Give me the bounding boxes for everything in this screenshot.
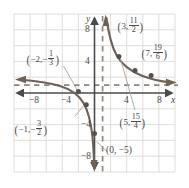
p6-numerator: 15 — [131, 113, 141, 121]
p5-fraction: 196 — [153, 44, 163, 62]
paren-open-p6: ( — [119, 116, 123, 130]
leader-lines — [64, 59, 136, 152]
p1-numerator: 1 — [48, 50, 54, 58]
p5-numerator: 19 — [153, 44, 163, 52]
x-axis-label: x — [171, 96, 175, 106]
p4-numerator: 11 — [129, 17, 139, 25]
point-label-5: (5,154) — [119, 113, 146, 131]
marker-neg2 — [76, 89, 81, 94]
tick-y-neg4: −4 — [81, 120, 91, 130]
point-label-neg1: (−1,−32) — [14, 120, 47, 138]
graph-figure: −8 −4 4 8 8 4 −4 −8 x y (−2,−13) (−1,−32… — [0, 0, 189, 188]
marker-0-neg5 — [92, 131, 97, 136]
p1-denominator: 3 — [48, 58, 54, 67]
paren-close-p2: ) — [43, 123, 47, 137]
y-axis-label: y — [86, 15, 90, 25]
p2-fraction: 32 — [36, 120, 42, 138]
tick-y-pos4: 4 — [85, 57, 90, 67]
p1-fraction: 13 — [48, 50, 54, 68]
p1-sign: − — [42, 54, 47, 64]
p2-denominator: 2 — [36, 128, 42, 137]
p2-numerator: 3 — [36, 120, 42, 128]
paren-close-p6: ) — [142, 116, 146, 130]
p4-fraction: 112 — [129, 17, 139, 35]
coordinate-plane — [0, 0, 189, 188]
paren-close-p5: ) — [164, 47, 168, 61]
leader-p1 — [64, 66, 78, 91]
paren-open-p4: ( — [117, 20, 121, 34]
marker-7 — [149, 73, 154, 78]
paren-close-p1: ) — [55, 53, 59, 67]
p5-x: 7, — [146, 48, 153, 58]
paren-open-p2: ( — [14, 123, 18, 137]
tick-x-pos8: 8 — [157, 96, 162, 106]
p4-denominator: 2 — [129, 25, 139, 34]
p2-sign: − — [30, 124, 35, 134]
p1-x: −2, — [31, 54, 43, 64]
tick-x-neg4: −4 — [61, 96, 71, 106]
p2-x: −1, — [19, 124, 31, 134]
tick-x-neg8: −8 — [29, 96, 39, 106]
marker-neg1 — [84, 102, 89, 107]
p6-denominator: 4 — [131, 121, 141, 130]
p6-fraction: 154 — [131, 113, 141, 131]
p4-x: 3, — [122, 21, 129, 31]
tick-y-neg8: −8 — [81, 152, 91, 162]
point-label-neg2: (−2,−13) — [26, 50, 59, 68]
point-label-0-neg5: (0, −5) — [106, 146, 132, 156]
marker-5 — [133, 68, 138, 73]
point-label-3: (3,112) — [117, 17, 144, 35]
axes — [17, 18, 172, 169]
p6-x: 5, — [124, 117, 131, 127]
paren-open-p1: ( — [26, 53, 30, 67]
point-label-7: (7,196) — [141, 44, 168, 62]
paren-open-p5: ( — [141, 47, 145, 61]
tick-y-pos8: 8 — [85, 25, 90, 35]
paren-close-p4: ) — [140, 20, 144, 34]
leader-p2 — [75, 104, 86, 117]
p5-denominator: 6 — [153, 52, 163, 61]
marker-3 — [116, 54, 121, 59]
tick-x-pos4: 4 — [124, 96, 129, 106]
